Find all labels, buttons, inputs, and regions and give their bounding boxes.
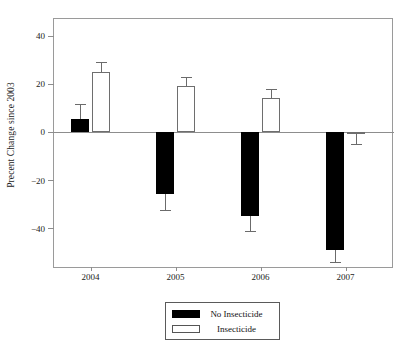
bar-2004-insecticide	[92, 72, 110, 132]
error-bar-cap-2005-0	[160, 210, 171, 211]
y-axis-title: Precent Change since 2003	[0, 0, 22, 270]
y-tick-label-0: 40	[36, 31, 45, 41]
error-bar-stem-2006-1	[271, 89, 272, 99]
error-bar-stem-2004-1	[101, 62, 102, 72]
bar-2006-insecticide	[262, 98, 280, 132]
legend-label-insecticide: Insecticide	[200, 324, 275, 334]
x-tick-label-2007: 2007	[337, 272, 355, 282]
error-bar-stem-2004-0	[80, 104, 81, 118]
y-axis-title-text: Precent Change since 2003	[6, 82, 16, 188]
y-tick-0: 40	[48, 36, 54, 37]
error-bar-stem-2005-0	[165, 194, 166, 210]
bar-2004-no-insecticide	[71, 119, 89, 132]
y-tick-label-3: −20	[31, 176, 45, 186]
bar-2005-no-insecticide	[156, 132, 174, 195]
x-tick-label-2004: 2004	[82, 272, 100, 282]
hollow-white-swatch-icon	[172, 325, 200, 333]
error-bar-cap-2004-0	[75, 104, 86, 105]
legend-label-no-insecticide: No Insecticide	[200, 309, 275, 319]
x-tick-0	[91, 267, 92, 271]
x-tick-label-2005: 2005	[167, 272, 185, 282]
y-tick-label-2: 0	[41, 127, 46, 137]
error-bar-stem-2006-0	[250, 216, 251, 230]
filled-black-swatch-icon	[172, 310, 200, 318]
x-tick-3	[346, 267, 347, 271]
error-bar-cap-2007-1	[351, 144, 362, 145]
error-bar-cap-2007-0	[330, 262, 341, 263]
legend-entry-no-insecticide: No Insecticide	[170, 306, 275, 321]
plot-area: 40200−20−40 2004200520062007	[53, 18, 393, 268]
y-tick-1: 20	[48, 84, 54, 85]
legend-entry-insecticide: Insecticide	[170, 321, 275, 336]
y-tick-label-1: 20	[36, 79, 45, 89]
bar-2007-no-insecticide	[326, 132, 344, 250]
y-tick-3: −20	[48, 180, 54, 181]
chart-legend: No Insecticide Insecticide	[165, 302, 280, 340]
bar-2006-no-insecticide	[241, 132, 259, 216]
error-bar-cap-2006-0	[245, 231, 256, 232]
x-tick-2	[261, 267, 262, 271]
y-tick-4: −40	[48, 228, 54, 229]
y-tick-label-4: −40	[31, 224, 45, 234]
error-bar-cap-2005-1	[181, 77, 192, 78]
error-bar-stem-2007-0	[335, 250, 336, 262]
error-bar-cap-2004-1	[96, 62, 107, 63]
error-bar-stem-2005-1	[186, 77, 187, 87]
y-tick-2: 0	[48, 132, 54, 133]
bar-chart-figure: Precent Change since 2003 40200−20−40 20…	[0, 0, 407, 351]
x-tick-1	[176, 267, 177, 271]
bar-2005-insecticide	[177, 86, 195, 132]
x-tick-label-2006: 2006	[252, 272, 270, 282]
error-bar-stem-2007-1	[356, 134, 357, 144]
error-bar-cap-2006-1	[266, 89, 277, 90]
